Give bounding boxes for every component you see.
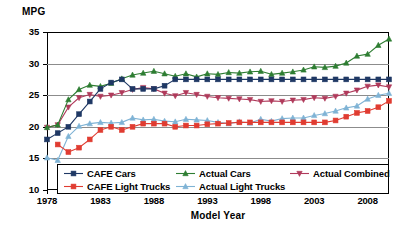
legend-item-actual-combined[interactable]: Actual Combined <box>289 168 390 179</box>
legend-label: Actual Light Trucks <box>199 181 285 192</box>
gridline <box>47 64 389 65</box>
gridline <box>47 127 389 128</box>
y-tick-label: 20 <box>17 122 39 132</box>
legend-item-actual-cars[interactable]: Actual Cars <box>175 168 251 179</box>
y-tick-mark <box>43 158 47 159</box>
legend-label: CAFE Cars <box>87 168 136 179</box>
legend-marker-icon <box>63 168 84 179</box>
legend-marker-icon <box>63 181 84 192</box>
chart-container: MPG Model Year 1015202530351978198319881… <box>0 0 408 237</box>
legend-item-actual-light-trucks[interactable]: Actual Light Trucks <box>175 181 285 192</box>
legend-item-cafe-light-trucks[interactable]: CAFE Light Trucks <box>63 181 170 192</box>
y-tick-label: 10 <box>17 185 39 195</box>
x-tick-label: 1978 <box>27 196 67 206</box>
y-tick-label: 25 <box>17 90 39 100</box>
legend-marker-icon <box>175 168 196 179</box>
y-tick-mark <box>43 127 47 128</box>
y-tick-mark <box>43 95 47 96</box>
x-tick-label: 1993 <box>187 196 227 206</box>
legend-marker-icon <box>175 181 196 192</box>
legend-item-cafe-cars[interactable]: CAFE Cars <box>63 168 136 179</box>
y-axis-label: MPG <box>22 6 45 17</box>
x-tick-label: 1988 <box>134 196 174 206</box>
x-tick-label: 2003 <box>294 196 334 206</box>
x-tick-label: 2008 <box>348 196 388 206</box>
x-tick-label: 1998 <box>241 196 281 206</box>
y-tick-label: 15 <box>17 153 39 163</box>
chart-legend: CAFE CarsActual CarsActual CombinedCAFE … <box>57 164 389 194</box>
x-axis-label: Model Year <box>47 210 389 221</box>
legend-label: Actual Combined <box>313 168 390 179</box>
legend-label: Actual Cars <box>199 168 251 179</box>
y-tick-mark <box>43 64 47 65</box>
y-tick-label: 30 <box>17 59 39 69</box>
legend-label: CAFE Light Trucks <box>87 181 170 192</box>
gridline <box>47 95 389 96</box>
y-tick-label: 35 <box>17 27 39 37</box>
gridline <box>47 158 389 159</box>
y-tick-mark <box>43 32 47 33</box>
legend-marker-icon <box>289 168 310 179</box>
x-tick-label: 1983 <box>80 196 120 206</box>
x-tick-mark <box>47 190 48 194</box>
